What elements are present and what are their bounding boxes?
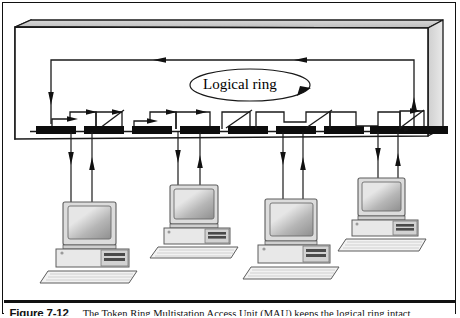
diagram-artwork (0, 0, 460, 318)
station-drop-arrows (68, 148, 401, 170)
logical-ring-label: Logical ring (203, 76, 277, 93)
workstation-4[interactable] (338, 178, 426, 251)
figure-container: Logical ring Figure 7-12The Token Ring M… (0, 0, 460, 318)
port-block-1 (36, 126, 76, 134)
port-block-10 (408, 126, 448, 134)
port-block-3 (132, 126, 172, 134)
figure-caption-text: The Token Ring Multistation Access Unit … (83, 308, 411, 316)
port-block-6 (276, 126, 316, 134)
workstation-2[interactable] (150, 185, 238, 258)
port-block-2 (84, 126, 124, 134)
figure-number: Figure 7-12 (10, 307, 69, 316)
station-drop-cables (71, 132, 398, 214)
workstation-1[interactable] (40, 202, 137, 283)
port-block-5 (228, 126, 268, 134)
figure-caption: Figure 7-12The Token Ring Multistation A… (4, 300, 455, 316)
workstation-3[interactable] (243, 199, 339, 279)
